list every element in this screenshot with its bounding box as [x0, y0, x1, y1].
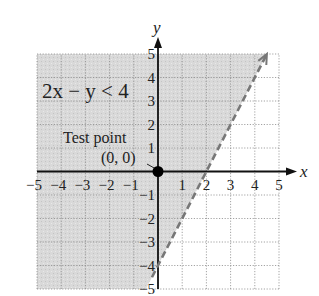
y-tick-label: 3 — [148, 93, 156, 109]
y-tick-label: −1 — [139, 187, 155, 203]
x-tick-label: −3 — [74, 177, 90, 193]
x-tick-label: −5 — [26, 177, 42, 193]
y-tick-label: 2 — [148, 117, 156, 133]
y-tick-label: 4 — [148, 70, 156, 86]
test-point-coords: (0, 0) — [101, 149, 136, 167]
x-tick-label: 3 — [227, 177, 235, 193]
x-tick-label: −1 — [123, 177, 139, 193]
y-tick-label: 1 — [148, 140, 156, 156]
x-axis-label: x — [299, 162, 308, 181]
inequality-label: 2x − y < 4 — [42, 79, 129, 103]
y-tick-label: −5 — [139, 281, 155, 296]
inequality-graph: x y 2x − y < 4 Test point (0, 0) −5−4−3−… — [0, 0, 319, 296]
x-tick-label: 1 — [178, 177, 186, 193]
x-axis-arrow-icon — [286, 168, 297, 176]
y-tick-label: 5 — [148, 46, 156, 62]
y-tick-label: −2 — [139, 211, 155, 227]
y-tick-label: −4 — [139, 258, 155, 274]
y-axis-label: y — [151, 18, 161, 37]
x-tick-label: 4 — [251, 177, 259, 193]
x-tick-label: −2 — [99, 177, 115, 193]
x-tick-label: −4 — [50, 177, 66, 193]
y-axis-arrow-icon — [154, 37, 162, 48]
test-point-marker — [153, 166, 164, 177]
x-tick-label: 2 — [203, 177, 211, 193]
test-point-label: Test point — [63, 129, 127, 147]
x-tick-label: 5 — [275, 177, 283, 193]
y-tick-label: −3 — [139, 234, 155, 250]
